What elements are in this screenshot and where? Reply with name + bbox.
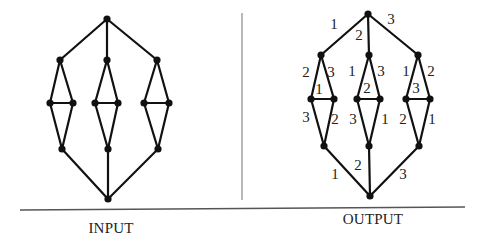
edge-color-label: 1 <box>381 111 389 127</box>
graph-edge <box>158 103 169 149</box>
edge-color-label: 1 <box>348 63 356 79</box>
edge-color-label: 3 <box>412 80 420 96</box>
edge-color-label: 3 <box>377 63 385 79</box>
output-graph: 123231132123323121123 <box>302 10 436 199</box>
graph-node <box>46 99 53 106</box>
graph-edge <box>95 103 108 149</box>
graph-node <box>69 99 76 106</box>
graph-edge <box>50 103 62 149</box>
graph-node <box>415 142 422 149</box>
graph-edge <box>107 60 118 103</box>
graph-edge <box>144 60 157 103</box>
graph-node <box>365 51 372 58</box>
graph-node <box>140 99 147 106</box>
baseline-rule <box>20 207 465 210</box>
output-caption: OUTPUT <box>343 211 403 227</box>
edge-color-label: 2 <box>331 111 339 127</box>
edge-color-label: 3 <box>387 11 395 27</box>
graph-node <box>56 56 63 63</box>
edge-color-label: 1 <box>428 111 436 127</box>
edge-color-label: 3 <box>399 166 407 182</box>
graph-node <box>165 99 172 106</box>
graph-node <box>376 95 383 102</box>
graph-edge <box>95 60 107 103</box>
graph-node <box>153 56 160 63</box>
graph-node <box>104 145 111 152</box>
edge-color-label: 2 <box>399 111 407 127</box>
edge-color-label: 1 <box>330 16 338 32</box>
graph-node <box>58 145 65 152</box>
graph-edge <box>157 60 169 103</box>
graph-edge <box>108 103 118 149</box>
graph-edge <box>311 99 324 146</box>
graph-edge <box>370 146 419 196</box>
graph-node <box>353 95 360 102</box>
graph-edge <box>357 99 369 146</box>
graph-node <box>103 56 110 63</box>
edge-color-label: 3 <box>327 64 335 80</box>
graph-edge <box>60 19 107 60</box>
edge-color-label: 2 <box>355 27 363 43</box>
edge-color-label: 2 <box>354 157 362 173</box>
graph-edge <box>60 60 73 103</box>
edge-color-label: 3 <box>349 111 357 127</box>
graph-edge <box>368 14 369 55</box>
graph-node <box>364 10 371 17</box>
graph-node <box>91 99 98 106</box>
graph-edge <box>62 149 108 199</box>
graph-edge <box>108 149 158 199</box>
graph-node <box>365 142 372 149</box>
graph-edge <box>62 103 73 149</box>
graph-node <box>426 95 433 102</box>
edge-color-label: 1 <box>402 63 410 79</box>
edge-color-label: 1 <box>331 166 339 182</box>
edge-color-label: 1 <box>315 81 323 97</box>
graph-node <box>154 145 161 152</box>
graph-node <box>402 95 409 102</box>
graph-edge <box>144 103 158 149</box>
graph-edge <box>50 60 60 103</box>
graph-edge <box>107 19 157 60</box>
input-graph-nodes <box>46 15 172 202</box>
edge-color-label: 2 <box>363 80 371 96</box>
input-graph <box>46 15 172 202</box>
graph-node <box>320 142 327 149</box>
graph-node <box>366 192 373 199</box>
graph-node <box>307 95 314 102</box>
edge-color-label: 2 <box>427 63 435 79</box>
graph-edge <box>369 146 370 196</box>
graph-node <box>104 195 111 202</box>
edge-color-label: 3 <box>302 109 310 125</box>
input-caption: INPUT <box>88 220 133 236</box>
input-graph-edges <box>50 19 169 199</box>
graph-edge <box>406 99 419 146</box>
diagram-canvas: 123231132123323121123 INPUT OUTPUT <box>0 0 486 241</box>
graph-node <box>414 51 421 58</box>
graph-node <box>317 51 324 58</box>
graph-node <box>114 99 121 106</box>
graph-edge <box>369 99 380 146</box>
graph-node <box>103 15 110 22</box>
graph-node <box>330 95 337 102</box>
edge-color-label: 2 <box>302 64 310 80</box>
output-graph-edges <box>311 14 430 196</box>
